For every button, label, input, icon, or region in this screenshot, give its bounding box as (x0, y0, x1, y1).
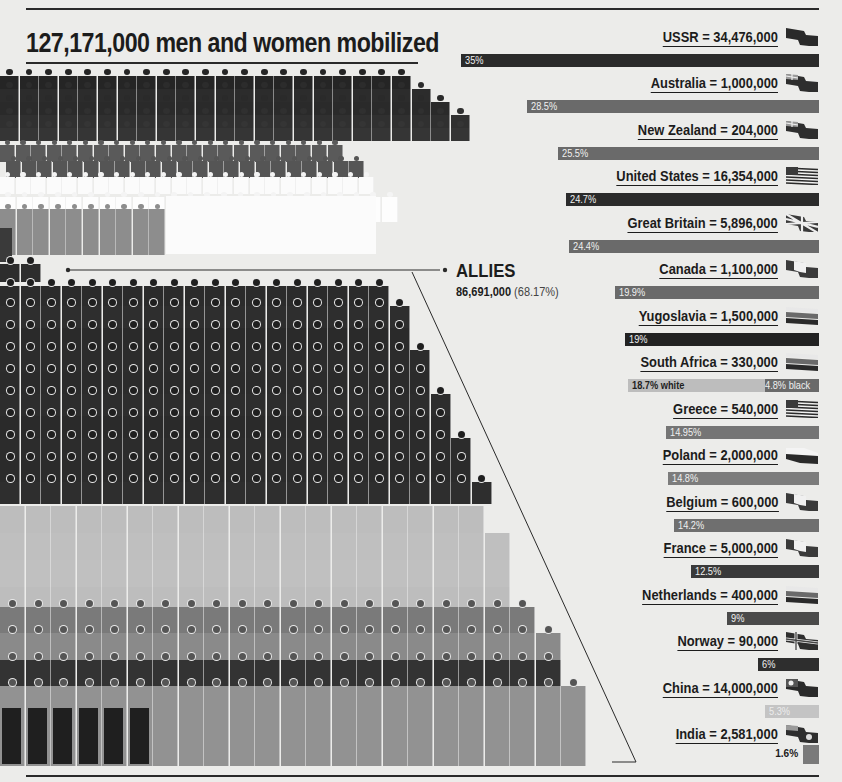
country-label: USSR = 34,476,000 (663, 28, 778, 47)
bar-belgium: 14.2% (674, 519, 819, 532)
country-row-great-britain: Great Britain = 5,896,00024.4% (0, 214, 842, 260)
new-zealand-flag-icon (784, 119, 818, 139)
country-row-canada: Canada = 1,100,00019.9% (0, 260, 842, 306)
country-row-france: France = 5,000,00012.5% (0, 539, 842, 585)
bar-value-label: 24.4% (573, 240, 599, 253)
bar-value-label: 14.8% (672, 472, 698, 485)
canada-flag-icon (784, 258, 818, 278)
bar-new-zealand: 25.5% (558, 147, 819, 160)
country-row-norway: Norway = 90,0006% (0, 632, 842, 678)
country-label: Poland = 2,000,000 (663, 446, 778, 465)
country-label: France = 5,000,000 (664, 539, 778, 558)
country-label: United States = 16,354,000 (616, 167, 778, 186)
bar-value-label: 18.7% white (632, 379, 684, 392)
country-row-south-africa: South Africa = 330,00018.7% white4.8% bl… (0, 353, 842, 399)
bar-ussr: 35% (461, 54, 819, 67)
greece-flag-icon (784, 398, 818, 418)
bar-value-label: 6% (762, 658, 775, 671)
bar-canada: 19.9% (615, 286, 819, 299)
bar-value-label: 19.9% (619, 286, 645, 299)
country-label: Canada = 1,100,000 (659, 260, 778, 279)
india-flag-icon (784, 723, 818, 743)
country-row-netherlands: Netherlands = 400,0009% (0, 586, 842, 632)
bar-norway: 6% (758, 658, 819, 671)
ussr-flag-icon (784, 26, 818, 46)
country-row-united-states: United States = 16,354,00024.7% (0, 167, 842, 213)
australia-flag-icon (784, 72, 818, 92)
bar-value-label: 28.5% (531, 100, 557, 113)
bar-south-africa-black: 4.8% black (765, 379, 819, 392)
country-label: South Africa = 330,000 (640, 353, 778, 372)
bar-value-label: 25.5% (562, 147, 588, 160)
bar-great-britain: 24.4% (569, 240, 819, 253)
bar-value-label: 14.2% (678, 519, 704, 532)
norway-flag-icon (784, 630, 818, 650)
country-row-india: India = 2,581,0001.6% (0, 725, 842, 771)
country-row-china: China = 14,000,0005.3% (0, 679, 842, 725)
bar-value-label: 24.7% (570, 193, 596, 206)
country-label: Norway = 90,000 (677, 632, 778, 651)
country-row-yugoslavia: Yugoslavia = 1,500,00019% (0, 307, 842, 353)
bar-india (803, 745, 819, 764)
poland-flag-icon (784, 444, 818, 464)
bar-value-label: 14.95% (670, 426, 701, 439)
country-label: Australia = 1,000,000 (651, 74, 778, 93)
bar-value-label-secondary: 4.8% black (765, 379, 810, 392)
bar-netherlands: 9% (727, 612, 819, 625)
country-label: India = 2,581,000 (676, 725, 778, 744)
country-row-belgium: Belgium = 600,00014.2% (0, 493, 842, 539)
bar-yugoslavia: 19% (625, 333, 819, 346)
bar-value-label: 12.5% (695, 565, 721, 578)
france-flag-icon (784, 537, 818, 557)
country-row-ussr: USSR = 34,476,00035% (0, 28, 842, 74)
country-label: Belgium = 600,000 (666, 493, 778, 512)
united-states-flag-icon (784, 165, 818, 185)
country-row-new-zealand: New Zealand = 204,00025.5% (0, 121, 842, 167)
country-label: New Zealand = 204,000 (638, 121, 778, 140)
bar-france: 12.5% (691, 565, 819, 578)
country-label: Greece = 540,000 (673, 400, 778, 419)
great-britain-flag-icon (784, 212, 818, 232)
bar-australia: 28.5% (527, 100, 819, 113)
belgium-flag-icon (784, 491, 818, 511)
country-label: Great Britain = 5,896,000 (628, 214, 778, 233)
south-africa-flag-icon (784, 351, 818, 371)
bar-value-label: 9% (731, 612, 744, 625)
bar-value-label: 35% (465, 54, 483, 67)
country-row-poland: Poland = 2,000,00014.8% (0, 446, 842, 492)
bar-china: 5.3% (765, 705, 819, 718)
country-label: China = 14,000,000 (663, 679, 778, 698)
country-label: Yugoslavia = 1,500,000 (639, 307, 778, 326)
bar-value-label: 1.6% (776, 747, 799, 759)
country-label: Netherlands = 400,000 (642, 586, 778, 605)
country-row-australia: Australia = 1,000,00028.5% (0, 74, 842, 120)
country-row-greece: Greece = 540,00014.95% (0, 400, 842, 446)
bar-greece: 14.95% (666, 426, 819, 439)
netherlands-flag-icon (784, 584, 818, 604)
bar-poland: 14.8% (668, 472, 819, 485)
yugoslavia-flag-icon (784, 305, 818, 325)
bar-value-label: 19% (629, 333, 647, 346)
bar-value-label: 5.3% (769, 705, 790, 718)
bar-united-states: 24.7% (566, 193, 819, 206)
china-flag-icon (784, 677, 818, 697)
